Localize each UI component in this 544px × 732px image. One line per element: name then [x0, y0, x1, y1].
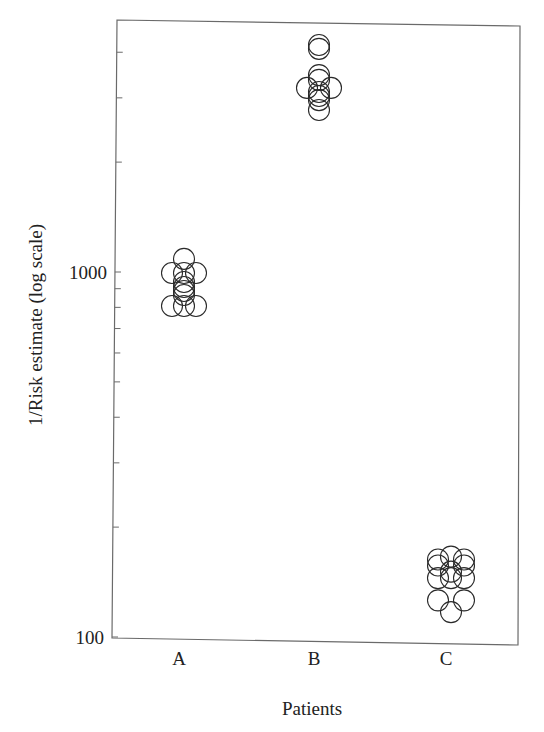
data-point-circle: [428, 590, 449, 611]
data-point-circle: [454, 590, 475, 611]
data-point-circle: [321, 77, 342, 98]
series-a: [162, 248, 207, 316]
data-point-circle: [309, 35, 330, 56]
data-point-circle: [174, 248, 195, 269]
data-point-circle: [297, 77, 318, 98]
x-axis-category-labels: ABC: [172, 648, 452, 669]
plot-border: [112, 20, 520, 645]
data-point-circle: [441, 602, 462, 623]
x-category-label-c: C: [440, 648, 453, 669]
y-axis-label: 1/Risk estimate (log scale): [25, 224, 47, 426]
x-category-label-b: B: [308, 648, 321, 669]
data-point-circle: [309, 86, 330, 107]
data-point-circle: [441, 568, 462, 589]
series-b: [297, 35, 342, 121]
data-point-circle: [454, 549, 475, 570]
data-point-circle: [454, 568, 475, 589]
series-c: [428, 546, 475, 622]
data-point-circle: [441, 561, 462, 582]
data-point-circle: [309, 69, 330, 90]
data-point-circle: [309, 65, 330, 86]
data-points: [162, 35, 475, 623]
x-category-label-a: A: [172, 648, 186, 669]
data-point-circle: [162, 295, 183, 316]
data-point-circle: [186, 295, 207, 316]
plot-frame: [112, 20, 520, 645]
data-point-circle: [428, 549, 449, 570]
x-axis-label: Patients: [282, 698, 342, 719]
scatter-chart: 1001000 ABC Patients 1/Risk estimate (lo…: [0, 0, 544, 732]
y-axis-ticks: [112, 52, 123, 637]
y-axis-tick-labels: 1001000: [69, 262, 107, 648]
y-tick-label: 100: [76, 627, 105, 648]
data-point-circle: [309, 38, 330, 59]
y-tick-label: 1000: [69, 262, 107, 283]
data-point-circle: [428, 568, 449, 589]
